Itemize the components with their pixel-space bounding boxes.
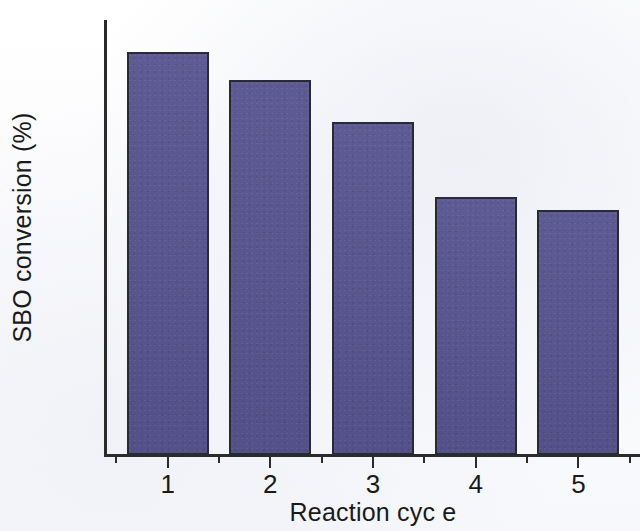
x-axis-tick-label: 3 xyxy=(366,471,380,497)
y-axis-title: SBO conversion (%) xyxy=(2,0,42,455)
x-axis-tick-label: 2 xyxy=(263,471,277,497)
x-axis-tick xyxy=(423,455,425,463)
x-axis-tick-label: 1 xyxy=(160,471,174,497)
x-axis-tick xyxy=(269,455,271,468)
x-axis-tick xyxy=(475,455,477,468)
x-axis-tick xyxy=(167,455,169,468)
x-axis-tick xyxy=(629,455,631,463)
x-axis-tick-label: 5 xyxy=(571,471,585,497)
x-axis-tick xyxy=(218,455,220,463)
x-axis-tick xyxy=(577,455,579,468)
plot-area: 02040608010012345 xyxy=(106,22,640,455)
axis-ticks-layer: 02040608010012345 xyxy=(106,22,640,455)
x-axis-title: Reaction cyc e xyxy=(106,498,640,527)
x-axis-tick-label: 4 xyxy=(468,471,482,497)
x-axis-tick xyxy=(115,455,117,463)
x-axis-tick xyxy=(321,455,323,463)
bar-chart-figure: SBO conversion (%) Reaction cyc e 020406… xyxy=(0,0,640,531)
x-axis-tick xyxy=(372,455,374,468)
x-axis-tick xyxy=(526,455,528,463)
